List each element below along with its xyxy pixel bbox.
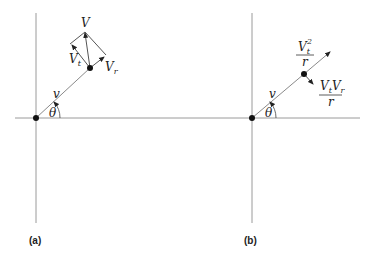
parallelogram-edge-1: [70, 32, 85, 44]
panel-b: Vt2 r VtVr r v θ (b): [187, 13, 360, 246]
origin-point-a: [33, 115, 39, 121]
velocity-label: V: [81, 16, 91, 30]
svg-text:VtVr: VtVr: [320, 79, 346, 95]
radius-line-a: [36, 68, 90, 118]
diagram-canvas: V Vt Vr v θ (a) Vt2 r VtVr r v θ (b): [0, 0, 374, 258]
svg-text:r: r: [328, 95, 335, 109]
caption-b: (b): [244, 235, 257, 246]
centripetal-term-label: Vt2 r: [296, 37, 314, 69]
coriolis-term-label: VtVr r: [319, 79, 346, 109]
radius-line-b: [252, 52, 330, 118]
particle-point-a: [87, 65, 93, 71]
svg-text:r: r: [302, 55, 309, 69]
panel-a: V Vt Vr v θ (a): [15, 13, 187, 246]
caption-a: (a): [29, 235, 41, 246]
origin-point-b: [249, 115, 255, 121]
radius-label-a: v: [53, 87, 60, 101]
radial-label: Vr: [105, 60, 119, 76]
radius-label-b: v: [269, 87, 276, 101]
particle-point-b: [301, 71, 307, 77]
svg-text:Vt2: Vt2: [298, 37, 312, 56]
angle-label-a: θ: [49, 106, 57, 120]
angle-label-b: θ: [265, 106, 273, 120]
